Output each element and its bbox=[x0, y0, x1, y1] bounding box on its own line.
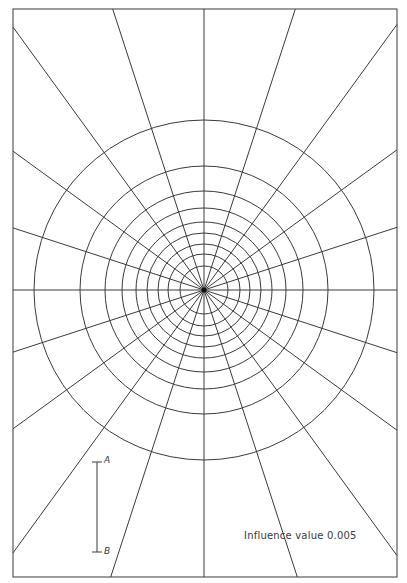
radial-line-3 bbox=[204, 24, 397, 290]
radial-line-19 bbox=[13, 27, 204, 290]
influence-value-label: Influence value 0.005 bbox=[244, 530, 357, 541]
radial-line-13 bbox=[13, 290, 204, 553]
influence-chart bbox=[0, 0, 407, 583]
radial-line-14 bbox=[13, 290, 204, 429]
scale-label-b: B bbox=[104, 546, 110, 556]
radial-line-9 bbox=[204, 290, 397, 556]
center-point bbox=[202, 288, 207, 293]
radial-line-15 bbox=[13, 290, 204, 352]
radial-line-5 bbox=[204, 227, 397, 290]
radial-line-2 bbox=[204, 9, 295, 290]
radial-line-12 bbox=[111, 290, 204, 577]
scale-bar bbox=[92, 462, 102, 552]
radial-line-17 bbox=[13, 228, 204, 290]
radial-lines bbox=[13, 9, 397, 577]
radial-line-7 bbox=[204, 290, 397, 353]
radial-line-18 bbox=[13, 151, 204, 290]
scale-label-a: A bbox=[104, 455, 110, 465]
radial-line-20 bbox=[113, 9, 204, 290]
